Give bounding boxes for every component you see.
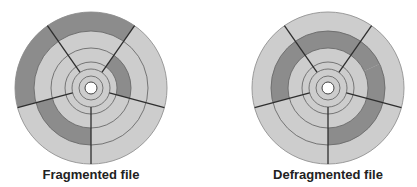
defragmented-file-caption: Defragmented file xyxy=(266,167,390,182)
fragmented-file-caption: Fragmented file xyxy=(38,167,144,182)
spindle-hole xyxy=(322,82,334,94)
spindle-hole xyxy=(85,82,97,94)
fragmented-disc-diagram xyxy=(0,0,417,187)
